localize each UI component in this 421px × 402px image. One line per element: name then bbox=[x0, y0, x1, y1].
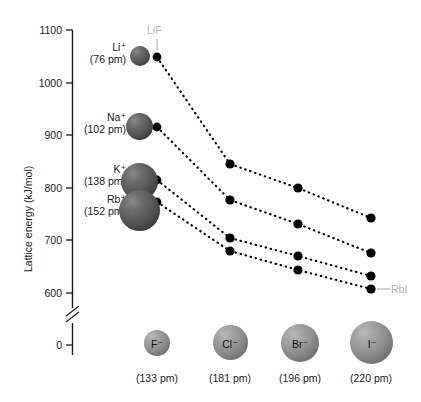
data-point bbox=[225, 195, 234, 204]
cation-symbol-na: Na⁺ bbox=[68, 111, 126, 123]
lattice-energy-chart: 1100 1000 900 800 700 600 0 Lattice ener… bbox=[0, 0, 421, 402]
anion-radius-f: (133 pm) bbox=[122, 372, 192, 384]
y-tick-label-0: 0 bbox=[24, 339, 62, 351]
data-points-na bbox=[153, 123, 376, 258]
data-point bbox=[225, 159, 234, 168]
cation-radius-li: (76 pm) bbox=[68, 53, 126, 65]
data-point bbox=[293, 183, 302, 192]
cation-sphere-li bbox=[130, 46, 150, 66]
data-points-k bbox=[153, 176, 376, 281]
cation-sphere-rb bbox=[119, 190, 160, 231]
cation-radius-na: (102 pm) bbox=[68, 123, 126, 135]
cation-label-rb: Rb⁺ (152 pm) bbox=[68, 193, 126, 217]
y-axis-ticks bbox=[66, 30, 73, 345]
data-point bbox=[153, 53, 162, 62]
data-point bbox=[293, 251, 302, 260]
anion-radius-i: (220 pm) bbox=[336, 372, 406, 384]
series-line-li bbox=[157, 57, 371, 218]
y-tick-label-1000: 1000 bbox=[24, 77, 62, 89]
data-point bbox=[366, 213, 375, 222]
series-line-rb bbox=[157, 202, 371, 289]
cation-symbol-li: Li⁺ bbox=[68, 41, 126, 53]
cation-symbol-k: K⁺ bbox=[68, 163, 126, 175]
anion-symbol-cl: Cl⁻ bbox=[210, 338, 250, 350]
cation-radius-k: (138 pm) bbox=[68, 175, 126, 187]
anion-symbol-br: Br⁻ bbox=[280, 338, 320, 350]
cation-label-li: Li⁺ (76 pm) bbox=[68, 41, 126, 65]
series-line-k bbox=[157, 180, 371, 276]
data-point bbox=[225, 246, 234, 255]
anion-radius-cl: (181 pm) bbox=[195, 372, 265, 384]
cation-symbol-rb: Rb⁺ bbox=[68, 193, 126, 205]
data-point bbox=[293, 219, 302, 228]
cation-radius-rb: (152 pm) bbox=[68, 205, 126, 217]
y-tick-label-600: 600 bbox=[24, 287, 62, 299]
data-point bbox=[366, 248, 375, 257]
y-tick-label-1100: 1100 bbox=[24, 24, 62, 36]
cation-sphere-na bbox=[126, 113, 153, 140]
anion-symbol-i: I⁻ bbox=[352, 338, 392, 350]
series-line-na bbox=[157, 127, 371, 253]
data-point bbox=[366, 271, 375, 280]
data-point bbox=[225, 233, 234, 242]
y-axis-title: Lattice energy (kJ/mol) bbox=[22, 166, 34, 272]
anion-symbol-f: F⁻ bbox=[137, 338, 177, 350]
anion-radius-br: (196 pm) bbox=[265, 372, 335, 384]
data-point bbox=[293, 265, 302, 274]
data-point bbox=[366, 284, 375, 293]
y-tick-label-900: 900 bbox=[24, 129, 62, 141]
annotation-lif: LiF bbox=[147, 24, 162, 36]
data-point bbox=[153, 123, 162, 132]
cation-label-k: K⁺ (138 pm) bbox=[68, 163, 126, 187]
data-points-li bbox=[153, 53, 376, 223]
cation-label-na: Na⁺ (102 pm) bbox=[68, 111, 126, 135]
annotation-rbi: RbI bbox=[391, 283, 407, 295]
axis-break-marker bbox=[66, 306, 79, 322]
